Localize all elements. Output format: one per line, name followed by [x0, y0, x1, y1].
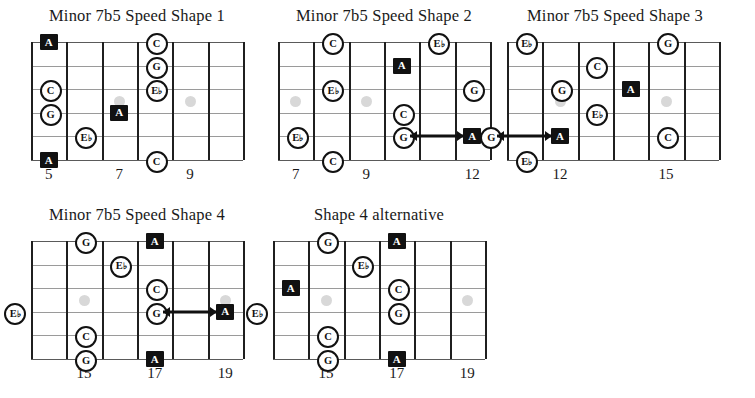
- diagram-title: Minor 7b5 Speed Shape 1: [28, 6, 246, 26]
- note-marker-tone: E♭: [322, 80, 344, 102]
- fret-inlay-dot: [290, 96, 301, 107]
- note-marker-tone: E♭: [75, 127, 97, 149]
- note-marker-label: G: [324, 356, 332, 367]
- fret-inlay-dot: [321, 295, 332, 306]
- note-marker-label: E♭: [521, 39, 532, 50]
- note-marker-tone: E♭: [352, 256, 374, 278]
- fretboard-grid: E♭CE♭CACGE♭GA: [278, 42, 490, 160]
- note-marker-tone: E♭: [246, 303, 268, 325]
- note-marker-label: A: [151, 354, 159, 365]
- diagram-title: Minor 7b5 Speed Shape 2: [275, 6, 493, 26]
- fret-line-3: [384, 42, 386, 160]
- note-marker-tone: C: [146, 33, 168, 55]
- note-marker-tone: C: [586, 57, 608, 79]
- note-marker-tone: C: [322, 151, 344, 173]
- note-marker-label: C: [153, 285, 161, 296]
- fret-line-3: [379, 241, 381, 359]
- fret-line-6: [719, 42, 721, 160]
- arrow-head-right: [210, 307, 217, 317]
- note-marker-tone: E♭: [516, 33, 538, 55]
- arrow-shaft: [410, 135, 465, 138]
- note-marker-root: A: [388, 351, 406, 367]
- note-marker-label: E♭: [433, 39, 444, 50]
- fret-line-6: [243, 42, 245, 160]
- fretboard-grid: E♭AGCGE♭ACGA: [273, 241, 485, 359]
- note-marker-tone: C: [322, 33, 344, 55]
- fret-line-3: [137, 42, 139, 160]
- fret-line-5: [450, 241, 452, 359]
- position-shift-arrow: [497, 130, 552, 142]
- fretboard-diagram-sheet: Minor 7b5 Speed Shape 1ACGAE♭ACGE♭C579Mi…: [0, 0, 755, 398]
- note-marker-label: A: [393, 236, 401, 247]
- fret-line-0: [31, 42, 33, 160]
- diagram-title: Shape 4 alternative: [270, 205, 488, 225]
- fret-line-2: [349, 42, 351, 160]
- fret-number-label: 15: [659, 166, 674, 183]
- note-marker-root: A: [40, 152, 58, 168]
- note-marker-tone: G: [388, 303, 410, 325]
- note-marker-label: A: [287, 283, 295, 294]
- fretboard-diagram-shape-4: Minor 7b5 Speed Shape 4E♭GCGE♭ACGAA15171…: [28, 205, 246, 390]
- note-marker-tone: C: [388, 279, 410, 301]
- note-marker-root: A: [146, 351, 164, 367]
- note-marker-label: G: [558, 86, 566, 97]
- note-marker-label: G: [395, 309, 403, 320]
- note-marker-label: G: [82, 356, 90, 367]
- arrow-shaft: [497, 135, 552, 138]
- note-marker-tone: E♭: [146, 80, 168, 102]
- string-line-6: [31, 160, 243, 161]
- note-marker-label: A: [221, 306, 229, 317]
- note-marker-label: A: [45, 37, 53, 48]
- fretboard-diagram-shape-3: Minor 7b5 Speed Shape 3E♭GE♭GACE♭AGC1215: [504, 6, 726, 191]
- note-marker-label: C: [153, 39, 161, 50]
- note-marker-label: A: [627, 84, 635, 95]
- string-line-6: [278, 160, 490, 161]
- fret-line-1: [66, 241, 68, 359]
- note-marker-tone: G: [75, 350, 97, 372]
- note-marker-tone: E♭: [110, 256, 132, 278]
- note-marker-tone: E♭: [428, 33, 450, 55]
- fret-line-4: [648, 42, 650, 160]
- note-marker-label: A: [45, 155, 53, 166]
- fret-number-label: 17: [389, 365, 404, 382]
- string-line-6: [273, 359, 485, 360]
- arrow-head-left: [410, 131, 417, 141]
- fret-line-1: [66, 42, 68, 160]
- position-shift-arrow: [163, 306, 218, 318]
- note-marker-tone: G: [146, 57, 168, 79]
- note-marker-label: C: [664, 133, 672, 144]
- fretboard-diagram-shape-2: Minor 7b5 Speed Shape 2E♭CE♭CACGE♭GA7912: [275, 6, 493, 191]
- note-marker-root: A: [146, 233, 164, 249]
- note-marker-label: G: [153, 309, 161, 320]
- fretboard-grid: E♭GE♭GACE♭AGC: [507, 42, 719, 160]
- fret-line-3: [137, 241, 139, 359]
- note-marker-tone: E♭: [287, 127, 309, 149]
- fret-number-label: 12: [553, 166, 568, 183]
- note-marker-tone: E♭: [4, 303, 26, 325]
- position-shift-arrow: [410, 130, 465, 142]
- note-marker-tone: G: [657, 33, 679, 55]
- fret-line-1: [313, 42, 315, 160]
- fretboard-diagram-shape-4-alt: Shape 4 alternativeE♭AGCGE♭ACGA151719: [270, 205, 488, 390]
- fret-inlay-dot: [79, 295, 90, 306]
- note-marker-label: G: [47, 110, 55, 121]
- string-line-6: [507, 160, 719, 161]
- fret-number-label: 7: [292, 166, 300, 183]
- fret-inlay-dot: [462, 295, 473, 306]
- fret-number-label: 9: [363, 166, 371, 183]
- arrow-head-left: [497, 131, 504, 141]
- note-marker-label: E♭: [292, 133, 303, 144]
- note-marker-label: C: [594, 62, 602, 73]
- note-marker-root: A: [388, 233, 406, 249]
- fret-line-1: [308, 241, 310, 359]
- note-marker-label: C: [82, 332, 90, 343]
- fretboard-grid: E♭GCGE♭ACGAA: [31, 241, 243, 359]
- fret-number-label: 19: [460, 365, 475, 382]
- fret-line-5: [684, 42, 686, 160]
- note-marker-label: A: [151, 236, 159, 247]
- note-marker-tone: C: [40, 80, 62, 102]
- arrow-head-right: [457, 131, 464, 141]
- note-marker-label: E♭: [358, 261, 369, 272]
- note-marker-label: C: [329, 39, 337, 50]
- note-marker-label: E♭: [327, 86, 338, 97]
